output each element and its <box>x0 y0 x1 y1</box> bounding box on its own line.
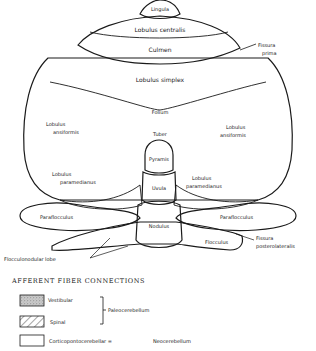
legend-swatch-corticopontocerebellar <box>20 335 44 346</box>
uvula-label: Uvula <box>152 185 166 191</box>
paraflocculus-left-label: Paraflocculus <box>40 214 73 220</box>
tuber-label: Tuber <box>152 131 168 137</box>
lingula-label: Lingula <box>151 6 169 13</box>
fissura-prima-label-2: prima <box>262 50 277 57</box>
fissura-posterolateralis-label-1: Fissura <box>256 235 273 241</box>
lobulus-simplex-label: Lobulus simplex <box>136 76 185 84</box>
fissura-prima-leader <box>240 44 256 50</box>
paramedianus-left-label-1: Lobulus <box>52 171 72 177</box>
paramedianus-right-label-1: Lobulus <box>192 175 212 181</box>
legend-label-vestibular: Vestibular <box>48 297 74 303</box>
legend-label-spinal: Spinal <box>50 319 65 326</box>
flocculus-label: Flocculus <box>205 239 229 245</box>
legend-paleocerebellum-label: Paleocerebellum <box>108 307 149 313</box>
paraflocculus-left <box>20 203 140 230</box>
pyramis-label: Pyramis <box>149 156 169 163</box>
nodulus-label: Nodulus <box>149 223 170 229</box>
lobulus-simplex-band <box>50 82 266 110</box>
ansiformis-right-label-2: ansiformis <box>220 132 246 138</box>
culmen-label: Culmen <box>149 46 172 53</box>
culmen-region <box>78 16 240 64</box>
paramedianus-left-label-2: paramedianus <box>60 179 96 186</box>
legend-swatch-vestibular <box>20 295 44 306</box>
paramedianus-right-label-2: paramedianus <box>186 183 222 190</box>
fissura-posterolateralis-leader <box>236 234 254 240</box>
ansiformis-right-label-1: Lobulus <box>226 124 246 130</box>
legend-heading: AFFERENT FIBER CONNECTIONS <box>11 277 145 285</box>
flocculonodular-lobe-label: Flocculonodular lobe <box>4 256 56 262</box>
fissura-prima-label-1: Fissura <box>258 42 275 48</box>
legend-label-corticopontocerebellar: Corticopontocerebellar = <box>49 338 112 345</box>
folium-label: Folium <box>152 109 169 115</box>
lobulus-centralis-label: Lobulus centralis <box>135 26 186 33</box>
cerebellum-diagram: Lingula Lobulus centralis Culmen Fissura… <box>0 0 316 351</box>
fissura-posterolateralis-label-2: posterolateralis <box>256 243 295 250</box>
paraflocculus-right-label: Paraflocculus <box>220 214 253 220</box>
ansiformis-left-label-2: ansiformis <box>53 129 79 135</box>
legend-neocerebellum-label: Neocerebellum <box>153 338 191 344</box>
spinal-band-left <box>60 185 142 209</box>
legend-bracket <box>100 297 106 324</box>
ansiformis-left-label-1: Lobulus <box>46 121 66 127</box>
legend-swatch-spinal <box>20 316 44 327</box>
